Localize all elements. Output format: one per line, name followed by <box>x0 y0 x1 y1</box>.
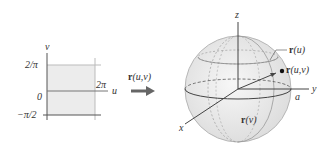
radius-label: a <box>295 91 300 102</box>
curve-v-label: r(v) <box>241 114 257 126</box>
domain-graph: v u 2/π 0 −π/2 2π <box>17 41 117 120</box>
tick-zero-label: 0 <box>37 91 42 102</box>
u-axis-label: u <box>112 85 117 96</box>
mapping-label-args: (u,v) <box>132 71 151 83</box>
parametrization-diagram: v u 2/π 0 −π/2 2π r(u,v) <box>0 0 331 148</box>
y-axis-label: y <box>311 83 317 94</box>
arrow-head-icon <box>146 86 155 96</box>
mapping-label: r(u,v) <box>128 71 152 83</box>
point-label: r(u,v) <box>286 64 310 76</box>
mapping-arrow: r(u,v) <box>128 71 155 96</box>
tick-u-right-label: 2π <box>96 79 107 90</box>
point-ruv <box>280 69 284 73</box>
point-label-args: (u,v) <box>290 64 309 76</box>
tick-bottom-label: −π/2 <box>17 109 37 120</box>
tick-top-label: 2/π <box>25 59 39 70</box>
curve-u-label-args: (u) <box>293 44 305 56</box>
curve-u-label: r(u) <box>289 44 306 56</box>
domain-region <box>47 65 95 115</box>
sphere-graph: z y x a r(u) r(u,v) r(v) <box>178 9 317 142</box>
x-axis-label: x <box>178 122 184 133</box>
z-axis-label: z <box>234 9 239 20</box>
v-axis-label: v <box>45 41 50 52</box>
curve-v-label-args: (v) <box>245 114 257 126</box>
